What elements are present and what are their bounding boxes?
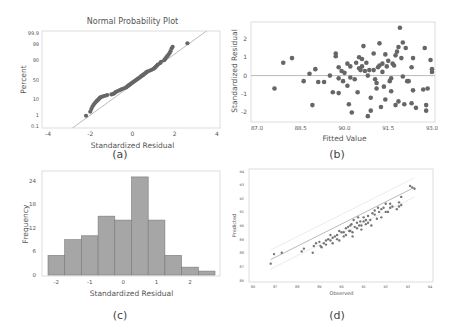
data-point [358, 224, 360, 226]
y-tick-label: 89 [240, 238, 244, 242]
data-point [84, 114, 88, 118]
data-point [389, 89, 394, 94]
data-point [354, 60, 359, 65]
data-point [329, 239, 331, 241]
data-point [392, 63, 397, 68]
data-point [424, 108, 429, 113]
histogram-bar [132, 177, 149, 275]
data-point [310, 103, 315, 108]
data-point [328, 73, 333, 78]
x-tick-label: -1 [87, 279, 92, 285]
y-tick-label: 24 [29, 178, 36, 184]
y-tick-label: 18 [29, 201, 36, 207]
data-point [395, 49, 400, 54]
data-point [360, 64, 365, 69]
data-point [329, 234, 331, 236]
data-point [378, 211, 380, 213]
data-point [425, 86, 430, 91]
data-point [331, 90, 336, 95]
data-point [373, 213, 375, 215]
data-point [380, 208, 382, 210]
data-point [409, 185, 411, 187]
x-tick-label: 94 [428, 285, 433, 289]
data-point [281, 252, 283, 254]
data-point [270, 262, 272, 264]
data-point [316, 80, 321, 85]
data-point [290, 56, 295, 61]
x-tick-label: 0 [121, 279, 125, 285]
normal-probability-plot: Normal Probability Plot0.111050909999.9-… [0, 0, 230, 165]
data-point [336, 76, 341, 81]
data-point [364, 60, 369, 65]
x-tick-label: 2 [188, 279, 192, 285]
data-point [341, 79, 346, 84]
data-point [411, 56, 416, 61]
data-point [313, 245, 315, 247]
data-point [391, 205, 393, 207]
data-point [301, 79, 306, 84]
y-tick-label: 12 [29, 225, 36, 231]
y-tick-label: 94 [240, 170, 245, 174]
x-tick-label: 86 [251, 285, 255, 289]
data-point [361, 44, 366, 49]
data-point [400, 204, 402, 206]
data-point [315, 242, 317, 244]
x-tick-label: 93 [406, 285, 410, 289]
y-axis-label: Percent [19, 65, 28, 93]
data-point [374, 86, 379, 91]
data-point [409, 101, 414, 106]
data-point [273, 253, 275, 255]
data-point [307, 71, 312, 76]
data-point [374, 81, 379, 86]
x-tick-label: 90 [339, 285, 343, 289]
x-tick-label: 89 [317, 285, 321, 289]
data-point [428, 58, 433, 63]
data-point [382, 207, 384, 209]
y-tick-label: 1 [36, 112, 39, 118]
data-point [367, 68, 372, 73]
x-axis-label: Observed [329, 290, 353, 296]
data-point [359, 220, 361, 222]
data-point [272, 86, 277, 91]
data-point [338, 230, 340, 232]
x-tick-label: 88.5 [295, 125, 308, 131]
data-point [403, 46, 408, 51]
data-point [343, 231, 345, 233]
data-point [322, 80, 327, 85]
data-point [369, 219, 371, 221]
data-point [362, 220, 364, 222]
histogram-bar [65, 240, 82, 275]
data-point [336, 238, 338, 240]
data-point [360, 228, 362, 230]
data-point [380, 216, 382, 218]
x-tick-label: 90.0 [338, 125, 351, 131]
data-point [373, 209, 375, 211]
y-axis-label: Predicted [231, 214, 237, 237]
data-point [350, 223, 352, 225]
y-tick-label: 0.1 [31, 123, 39, 129]
data-point [382, 84, 387, 89]
y-tick-label: 90 [33, 57, 39, 63]
data-point [333, 54, 338, 59]
data-point [320, 246, 322, 248]
data-point [349, 230, 351, 232]
data-point [367, 222, 369, 224]
x-tick-label: 93.0 [426, 125, 439, 131]
data-point [171, 45, 175, 49]
data-point [371, 68, 376, 73]
y-tick-label: 87 [240, 265, 244, 269]
y-tick-label: 92 [240, 197, 244, 201]
data-point [360, 57, 365, 62]
y-tick-label: -1 [241, 90, 247, 97]
data-point [281, 60, 286, 65]
data-point [345, 83, 350, 88]
x-axis-label: Fitted Value [322, 134, 366, 143]
data-point [396, 208, 398, 210]
upper-band-line [271, 178, 415, 250]
data-point [365, 223, 367, 225]
x-tick-label: 91 [361, 285, 365, 289]
data-point [385, 203, 387, 205]
data-point [414, 106, 419, 111]
data-point [387, 211, 389, 213]
data-point [362, 216, 364, 218]
